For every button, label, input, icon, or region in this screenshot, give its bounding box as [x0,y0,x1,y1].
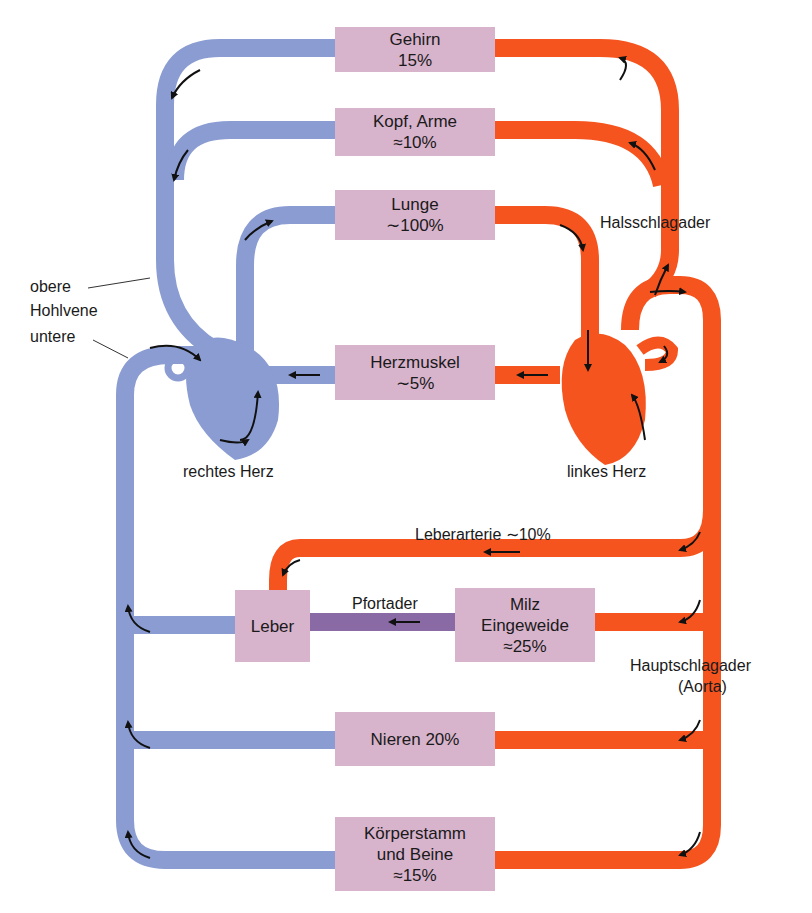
label-hohlvene: Hohlvene [30,302,98,320]
organ-name: Lunge [391,194,438,215]
organ-name-2: und Beine [377,844,454,865]
label-untere: untere [30,328,75,346]
label-leberarterie: Leberarterie ∼10% [415,525,551,544]
left-heart [562,334,646,465]
organ-value: ≈10% [393,132,436,153]
organ-name: Körperstamm [364,823,466,844]
label-aorta: (Aorta) [678,678,727,696]
organ-value: ≈15% [393,865,436,886]
organ-milz-eingeweide: Milz Eingeweide ≈25% [455,588,595,662]
organ-gehirn: Gehirn 15% [335,27,495,72]
organ-koerperstamm: Körperstamm und Beine ≈15% [335,817,495,891]
organ-herzmuskel: Herzmuskel ∼5% [335,345,495,400]
organ-lunge: Lunge ∼100% [335,190,495,240]
organ-value: 15% [398,50,432,71]
label-pfortader: Pfortader [352,595,418,613]
label-halsschlagader: Halsschlagader [600,214,710,232]
organ-value: ∼5% [396,373,435,394]
label-linkes-herz: linkes Herz [567,463,646,481]
organ-nieren: Nieren 20% [335,712,495,766]
organ-name: Leber [251,616,294,637]
organ-name: Nieren 20% [371,729,460,750]
organ-name: Kopf, Arme [373,111,457,132]
organ-name: Milz [510,594,540,615]
organ-kopf-arme: Kopf, Arme ≈10% [335,108,495,156]
label-rechtes-herz: rechtes Herz [183,463,274,481]
organ-name: Herzmuskel [370,352,460,373]
organ-value: ≈25% [503,636,546,657]
organ-value: ∼100% [386,215,443,236]
label-obere: obere [30,278,71,296]
organ-name-2: Eingeweide [481,615,569,636]
label-hauptschlagader: Hauptschlagader [630,657,751,675]
pulmonary-artery [245,215,335,355]
organ-name: Gehirn [389,29,440,50]
organ-leber: Leber [235,590,310,662]
